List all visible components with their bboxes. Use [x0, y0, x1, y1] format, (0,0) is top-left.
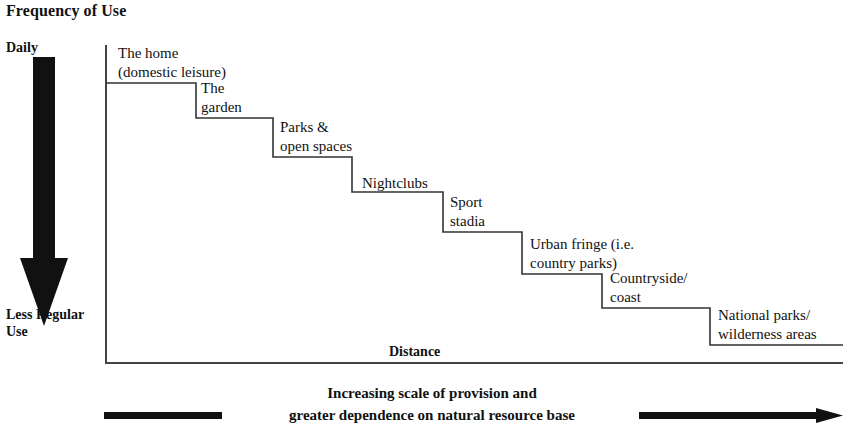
y-axis-bottom-label: Less Regular Use — [6, 306, 106, 340]
y-axis-top-label: Daily — [6, 40, 38, 56]
x-axis-label: Distance — [389, 344, 440, 360]
frequency-arrow-icon — [20, 57, 68, 326]
step-label-line: Countryside/ — [610, 269, 688, 288]
step-label-line: open spaces — [280, 137, 352, 156]
step-label-1: The home(domestic leisure) — [118, 44, 226, 82]
caption-line-2: greater dependence on natural resource b… — [222, 404, 642, 426]
step-label-line: wilderness areas — [718, 325, 817, 344]
step-label-8: National parks/wilderness areas — [718, 306, 817, 344]
step-label-line: The — [201, 79, 242, 98]
caption-line-1: Increasing scale of provision and — [222, 382, 642, 404]
diagram-canvas: Frequency of Use Daily Less Regular Use … — [0, 0, 843, 434]
step-label-3: Parks &open spaces — [280, 118, 352, 156]
step-label-line: coast — [610, 288, 688, 307]
step-label-line: Nightclubs — [362, 174, 428, 193]
diagram-caption: Increasing scale of provision and greate… — [222, 382, 642, 426]
step-label-line: Sport — [450, 193, 485, 212]
page-title: Frequency of Use — [6, 2, 126, 20]
step-label-4: Nightclubs — [362, 174, 428, 193]
step-label-line: Urban fringe (i.e. — [530, 235, 634, 254]
step-label-line: garden — [201, 98, 242, 117]
step-label-line: National parks/ — [718, 306, 817, 325]
step-label-line: Parks & — [280, 118, 352, 137]
step-label-6: Urban fringe (i.e.country parks) — [530, 235, 634, 273]
step-label-5: Sportstadia — [450, 193, 485, 231]
step-label-line: The home — [118, 44, 226, 63]
step-label-2: Thegarden — [201, 79, 242, 117]
step-label-7: Countryside/coast — [610, 269, 688, 307]
step-label-line: stadia — [450, 212, 485, 231]
